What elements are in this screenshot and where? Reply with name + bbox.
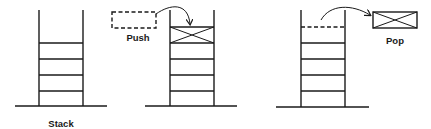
stack-panel: Stack xyxy=(15,10,107,129)
stack-diagram: Stack Push Pop xyxy=(0,0,431,129)
push-panel: Push xyxy=(112,7,237,106)
incoming-item-box xyxy=(112,12,156,28)
stack-label: Stack xyxy=(48,118,74,129)
push-arrow-icon xyxy=(156,7,190,24)
pop-label: Pop xyxy=(386,35,404,46)
push-label: Push xyxy=(126,32,149,43)
pop-panel: Pop xyxy=(276,7,417,107)
